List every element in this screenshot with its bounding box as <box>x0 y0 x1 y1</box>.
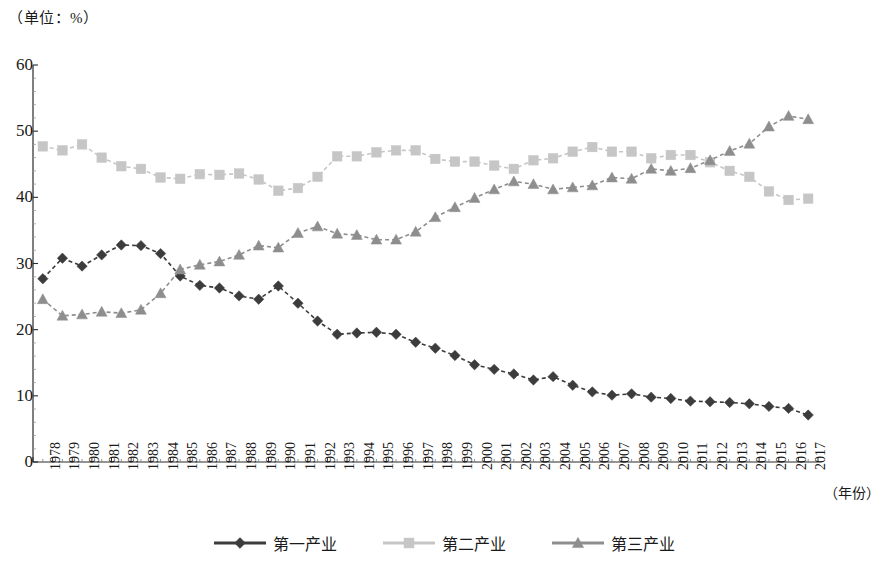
x-tick-1992: 1992 <box>323 442 339 470</box>
x-tick-1980: 1980 <box>87 442 103 470</box>
marker-square <box>745 172 755 182</box>
x-tick-1982: 1982 <box>126 442 142 470</box>
series-line <box>43 116 808 316</box>
marker-triangle <box>724 146 735 156</box>
x-tick-2008: 2008 <box>637 442 653 470</box>
x-tick-2013: 2013 <box>735 442 751 470</box>
marker-diamond <box>626 389 636 399</box>
x-axis-title: （年份） <box>824 482 880 502</box>
marker-diamond <box>666 393 676 403</box>
marker-square <box>352 152 362 162</box>
x-tick-2016: 2016 <box>794 442 810 470</box>
legend-marker-triangle-icon <box>550 535 606 551</box>
marker-square <box>97 153 107 163</box>
x-tick-2010: 2010 <box>676 442 692 470</box>
marker-triangle <box>528 179 539 189</box>
marker-square <box>666 150 676 160</box>
marker-triangle <box>803 114 814 124</box>
marker-triangle <box>646 163 657 173</box>
x-tick-2000: 2000 <box>480 442 496 470</box>
marker-triangle <box>587 180 598 190</box>
legend-item-2[interactable]: 第二产业 <box>381 531 506 555</box>
legend-item-1[interactable]: 第一产业 <box>212 531 337 555</box>
marker-square <box>784 195 794 205</box>
marker-square <box>77 140 87 150</box>
marker-diamond <box>685 396 695 406</box>
series-第三产业 <box>37 110 813 320</box>
marker-triangle <box>96 306 107 316</box>
x-tick-2011: 2011 <box>695 443 711 470</box>
marker-square <box>136 164 146 174</box>
marker-square <box>725 166 735 176</box>
x-tick-2009: 2009 <box>656 442 672 470</box>
chart-container: （单位：%） 6050403020100 1978197919801981198… <box>0 0 886 563</box>
x-tick-1983: 1983 <box>146 442 162 470</box>
marker-square <box>764 187 774 197</box>
marker-diamond <box>567 380 577 390</box>
marker-diamond <box>136 240 146 250</box>
x-tick-1990: 1990 <box>283 442 299 470</box>
x-tick-2001: 2001 <box>499 442 515 470</box>
marker-triangle <box>783 110 794 120</box>
marker-square <box>450 157 460 167</box>
marker-diamond <box>548 371 558 381</box>
marker-diamond <box>352 328 362 338</box>
marker-square <box>646 154 656 164</box>
marker-diamond <box>724 397 734 407</box>
x-tick-1988: 1988 <box>244 442 260 470</box>
marker-triangle <box>548 184 559 194</box>
marker-diamond <box>96 250 106 260</box>
legend-label-3: 第三产业 <box>611 531 675 555</box>
marker-square <box>391 146 401 156</box>
chart-legend: 第一产业第二产业第三产业 <box>0 531 886 555</box>
legend-label-2: 第二产业 <box>442 531 506 555</box>
marker-triangle <box>135 304 146 314</box>
marker-diamond <box>646 392 656 402</box>
marker-diamond <box>253 294 263 304</box>
marker-diamond <box>38 274 48 284</box>
x-tick-2004: 2004 <box>558 442 574 470</box>
x-tick-1996: 1996 <box>401 442 417 470</box>
marker-triangle <box>449 202 460 212</box>
marker-diamond <box>214 283 224 293</box>
marker-square <box>313 172 323 182</box>
marker-square <box>627 147 637 157</box>
x-tick-1993: 1993 <box>342 442 358 470</box>
plot-area <box>0 0 886 563</box>
marker-square <box>431 154 441 164</box>
x-tick-1989: 1989 <box>264 442 280 470</box>
x-tick-1986: 1986 <box>205 442 221 470</box>
marker-square <box>548 154 558 164</box>
x-tick-1998: 1998 <box>440 442 456 470</box>
marker-diamond <box>391 329 401 339</box>
marker-square <box>38 142 48 152</box>
marker-square <box>156 173 166 183</box>
x-tick-2005: 2005 <box>578 442 594 470</box>
x-tick-2006: 2006 <box>597 442 613 470</box>
x-tick-2003: 2003 <box>538 442 554 470</box>
marker-triangle <box>489 184 500 194</box>
marker-triangle <box>430 212 441 222</box>
x-tick-1981: 1981 <box>107 442 123 470</box>
marker-triangle <box>332 228 343 238</box>
series-第一产业 <box>38 240 814 420</box>
x-tick-1997: 1997 <box>421 442 437 470</box>
marker-square <box>58 146 68 156</box>
x-tick-1995: 1995 <box>381 442 397 470</box>
x-tick-1985: 1985 <box>185 442 201 470</box>
marker-square <box>293 183 303 193</box>
legend-item-3[interactable]: 第三产业 <box>550 531 675 555</box>
x-tick-1987: 1987 <box>224 442 240 470</box>
marker-square <box>372 148 382 158</box>
x-tick-2017: 2017 <box>813 442 829 470</box>
marker-square <box>404 538 414 548</box>
marker-diamond <box>195 280 205 290</box>
marker-diamond <box>234 291 244 301</box>
x-tick-2002: 2002 <box>519 442 535 470</box>
marker-triangle <box>234 249 245 259</box>
marker-square <box>686 150 696 160</box>
x-tick-1999: 1999 <box>460 442 476 470</box>
marker-square <box>588 142 598 152</box>
marker-triangle <box>37 294 48 304</box>
marker-diamond <box>410 337 420 347</box>
